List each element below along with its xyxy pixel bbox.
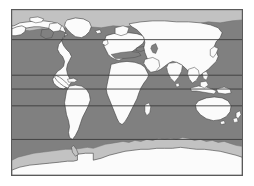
new-zealand-south-island bbox=[233, 118, 238, 123]
screenshot-root bbox=[0, 0, 254, 186]
world-map-svg bbox=[12, 10, 242, 175]
sri-lanka bbox=[176, 83, 180, 87]
map-frame bbox=[11, 9, 243, 176]
